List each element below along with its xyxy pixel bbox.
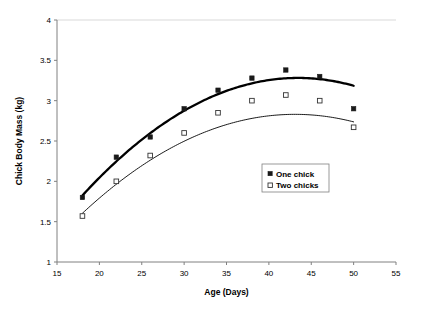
data-point-marker xyxy=(250,98,255,103)
data-point-marker xyxy=(318,74,322,78)
data-point-marker xyxy=(351,125,356,130)
y-tick-label: 3 xyxy=(47,97,52,106)
chart-legend: One chick Two chicks xyxy=(262,164,329,192)
chart-background xyxy=(0,0,422,310)
data-point-marker xyxy=(216,110,221,115)
chick-body-mass-scatter-chart: 11.522.533.54 152025303540455055 Chick B… xyxy=(0,0,422,310)
data-point-marker xyxy=(216,88,220,92)
y-tick-label: 2.5 xyxy=(40,137,52,146)
data-point-marker xyxy=(80,214,85,219)
legend-marker-one-chick xyxy=(268,172,272,176)
x-tick-label: 25 xyxy=(137,269,146,278)
data-point-marker xyxy=(284,68,288,72)
data-point-marker xyxy=(182,107,186,111)
y-tick-label: 1 xyxy=(47,258,52,267)
data-point-marker xyxy=(114,179,119,184)
x-tick-label: 30 xyxy=(180,269,189,278)
y-tick-label: 1.5 xyxy=(40,218,52,227)
chart-container: 11.522.533.54 152025303540455055 Chick B… xyxy=(0,0,422,310)
y-axis-title: Chick Body Mass (kg) xyxy=(14,97,24,185)
data-point-marker xyxy=(317,98,322,103)
data-point-marker xyxy=(250,76,254,80)
legend-marker-two-chicks xyxy=(268,183,272,187)
data-point-marker xyxy=(351,107,355,111)
y-tick-label: 2 xyxy=(47,177,52,186)
x-tick-label: 40 xyxy=(264,269,273,278)
x-tick-label: 45 xyxy=(307,269,316,278)
y-tick-label: 4 xyxy=(47,16,52,25)
legend-label-two-chicks: Two chicks xyxy=(276,181,319,190)
x-axis-title: Age (Days) xyxy=(204,287,249,297)
x-tick-label: 55 xyxy=(392,269,401,278)
data-point-marker xyxy=(148,153,153,158)
data-point-marker xyxy=(182,131,187,136)
data-point-marker xyxy=(148,135,152,139)
x-tick-label: 35 xyxy=(222,269,231,278)
x-tick-label: 50 xyxy=(349,269,358,278)
data-point-marker xyxy=(284,93,289,98)
x-tick-label: 15 xyxy=(53,269,62,278)
y-tick-label: 3.5 xyxy=(40,56,52,65)
x-tick-label: 20 xyxy=(95,269,104,278)
data-point-marker xyxy=(80,195,84,199)
legend-label-one-chick: One chick xyxy=(276,170,315,179)
data-point-marker xyxy=(114,155,118,159)
